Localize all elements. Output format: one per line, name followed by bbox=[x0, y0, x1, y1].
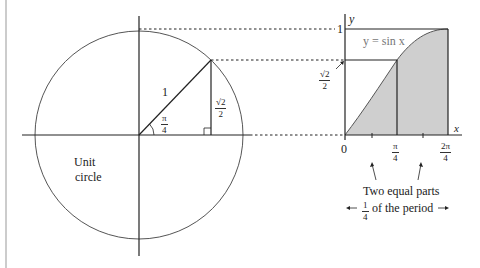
annotation-quarter-den: 4 bbox=[363, 212, 368, 222]
angle-label-num: π bbox=[161, 114, 168, 125]
x-tick-pi-over-4-den: 4 bbox=[393, 153, 398, 163]
y-tick-one: 1 bbox=[337, 23, 343, 35]
angle-arc bbox=[150, 124, 155, 135]
arrow-to-first-part-head bbox=[370, 162, 374, 167]
annotation-quarter-num: 1 bbox=[362, 201, 369, 212]
annotation-two-equal-parts: Two equal parts bbox=[363, 185, 439, 197]
y-tick-sqrt2-num: √2 bbox=[319, 70, 330, 81]
y-axis-label: y bbox=[349, 13, 354, 25]
x-tick-pi-over-4: π 4 bbox=[392, 142, 399, 163]
period-arrow-right-head bbox=[445, 206, 449, 210]
opposite-side-label: √2 2 bbox=[215, 98, 226, 119]
arrow-to-first-part bbox=[372, 164, 376, 180]
x-tick-pi-over-4-num: π bbox=[392, 142, 399, 153]
radius-label: 1 bbox=[162, 86, 168, 98]
angle-label: π 4 bbox=[161, 114, 168, 135]
x-axis-label: x bbox=[454, 123, 459, 134]
x-tick-2pi-over-4-num: 2π bbox=[440, 142, 451, 153]
x-tick-2pi-over-4-den: 4 bbox=[443, 153, 448, 163]
unit-circle-sine-diagram bbox=[0, 0, 480, 268]
annotation-of-the-period: of the period bbox=[372, 202, 433, 214]
angle-label-den: 4 bbox=[162, 125, 167, 135]
arrow-to-second-part bbox=[418, 164, 421, 180]
period-arrow-left-head bbox=[346, 206, 350, 210]
opposite-side-label-num: √2 bbox=[215, 98, 226, 109]
right-angle-marker bbox=[204, 128, 211, 135]
y-tick-sqrt2-den: 2 bbox=[322, 81, 327, 91]
x-tick-2pi-over-4: 2π 4 bbox=[440, 142, 451, 163]
curve-label: y = sin x bbox=[363, 35, 405, 47]
unit-circle-label-line1: Unit bbox=[74, 156, 95, 168]
unit-circle-label-line2: circle bbox=[75, 171, 102, 183]
x-tick-zero: 0 bbox=[341, 143, 347, 155]
arrow-to-second-part-head bbox=[419, 162, 423, 167]
y-tick-sqrt2-over-2: √2 2 bbox=[319, 70, 330, 91]
annotation-quarter-fraction: 1 4 bbox=[362, 201, 369, 222]
opposite-side-label-den: 2 bbox=[218, 109, 223, 119]
